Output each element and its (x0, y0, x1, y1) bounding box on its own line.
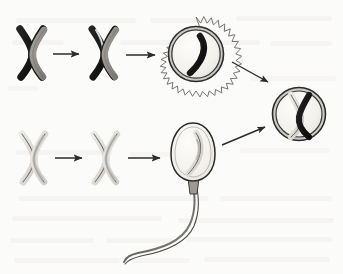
fertilization-diagram: Fertilization: chromosome contribution f… (0, 0, 343, 274)
zygote-cell (273, 88, 326, 141)
diagram-canvas (0, 0, 343, 274)
